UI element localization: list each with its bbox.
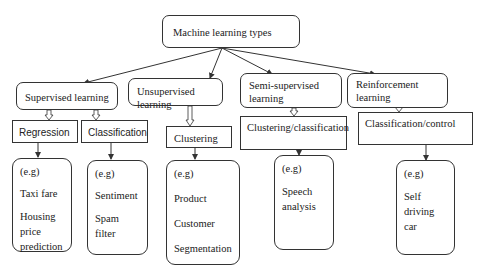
subtype-label: Regression (19, 127, 70, 138)
category-label: Semi-supervised learning (249, 80, 319, 104)
example-item: Spam filter (95, 211, 125, 241)
example-item: Customer (174, 217, 232, 230)
example-item: Product (174, 192, 232, 205)
examples-classification: (e.g) Sentiment Spam filter (87, 160, 148, 255)
subtype-label: Clustering/classification (247, 122, 349, 133)
example-item: Segmentation (174, 242, 232, 255)
category-label: Supervised learning (25, 92, 109, 103)
eg-prefix: (e.g) (404, 167, 447, 180)
examples-clustering-classification: (e.g) Speech analysis (274, 155, 334, 250)
eg-prefix: (e.g) (174, 167, 232, 180)
example-item: Sentiment (95, 189, 140, 202)
examples-clustering: (e.g) Product Customer Segmentation (166, 160, 240, 265)
example-item: Taxi fare (20, 187, 64, 200)
examples-regression: (e.g) Taxi fare Housing price prediction (12, 158, 72, 252)
category-label: Reinforcement learning (356, 79, 418, 103)
root-node: Machine learning types (162, 15, 300, 48)
example-item: Housing price prediction (20, 209, 64, 254)
eg-prefix: (e.g) (95, 167, 140, 180)
category-supervised: Supervised learning (16, 82, 118, 110)
subtype-label: Classification/control (365, 118, 455, 129)
subtype-classification: Classification (81, 120, 148, 143)
subtype-label: Clustering (174, 133, 218, 144)
example-item: Self driving car (404, 189, 448, 234)
category-unsupervised: Unsupervised learning (128, 78, 223, 106)
root-label: Machine learning types (173, 27, 272, 38)
examples-classification-control: (e.g) Self driving car (396, 160, 455, 255)
category-semi-supervised: Semi-supervised learning (240, 73, 342, 108)
subtype-clustering: Clustering (166, 126, 232, 148)
eg-prefix: (e.g) (282, 162, 326, 175)
subtype-regression: Regression (12, 120, 78, 143)
subtype-label: Classification (88, 127, 147, 138)
category-reinforcement: Reinforcement learning (347, 73, 448, 108)
subtype-clustering-classification: Clustering/classification (240, 116, 347, 150)
eg-prefix: (e.g) (20, 165, 64, 178)
example-item: Speech analysis (282, 184, 322, 214)
subtype-classification-control: Classification/control (358, 112, 473, 145)
